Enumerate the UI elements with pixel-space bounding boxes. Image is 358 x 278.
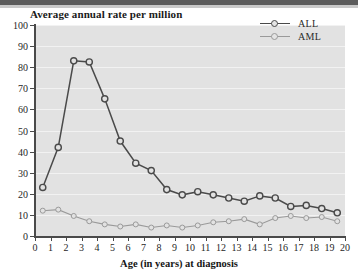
gridline: [35, 173, 345, 174]
legend-item-aml[interactable]: AML: [258, 30, 342, 42]
x-tick-mark: [97, 237, 98, 241]
y-tick-label: 100: [2, 20, 28, 31]
gridline: [35, 46, 345, 47]
x-tick-mark: [66, 237, 67, 241]
x-tick-mark: [144, 237, 145, 241]
y-tick-mark: [30, 109, 35, 110]
gridline: [35, 109, 345, 110]
legend-label: ALL: [292, 18, 318, 29]
x-tick-mark: [128, 237, 129, 241]
y-tick-label: 40: [2, 146, 28, 157]
y-tick-label: 80: [2, 62, 28, 73]
legend-point-icon: [271, 20, 278, 27]
y-tick-mark: [30, 46, 35, 47]
legend-point-icon: [271, 33, 278, 40]
y-tick-label: 10: [2, 209, 28, 220]
y-tick-mark: [30, 173, 35, 174]
y-tick-mark: [30, 88, 35, 89]
x-tick-mark: [314, 237, 315, 241]
legend-label: AML: [292, 31, 321, 42]
x-tick-mark: [299, 237, 300, 241]
y-tick-mark: [30, 215, 35, 216]
x-tick-mark: [345, 237, 346, 241]
x-tick-label: 20: [336, 242, 354, 253]
y-tick-mark: [30, 194, 35, 195]
gridline: [35, 131, 345, 132]
gridline: [35, 152, 345, 153]
y-tick-label: 90: [2, 41, 28, 52]
y-tick-label: 30: [2, 167, 28, 178]
x-tick-mark: [190, 237, 191, 241]
x-tick-mark: [113, 237, 114, 241]
y-tick-label: 20: [2, 188, 28, 199]
x-tick-mark: [330, 237, 331, 241]
gridline: [35, 67, 345, 68]
x-tick-mark: [82, 237, 83, 241]
y-tick-label: 0: [2, 231, 28, 242]
legend-marker-icon: [258, 30, 292, 42]
gridline: [35, 88, 345, 89]
y-tick-label: 60: [2, 104, 28, 115]
y-tick-mark: [30, 152, 35, 153]
x-tick-mark: [252, 237, 253, 241]
x-tick-mark: [221, 237, 222, 241]
gridline: [35, 215, 345, 216]
x-axis-title: Age (in years) at diagnosis: [0, 258, 358, 269]
x-tick-mark: [159, 237, 160, 241]
figure-canvas: Average annual rate per million 01020304…: [0, 0, 358, 278]
gridline: [35, 194, 345, 195]
x-tick-mark: [206, 237, 207, 241]
x-tick-mark: [51, 237, 52, 241]
y-tick-mark: [30, 131, 35, 132]
x-tick-mark: [283, 237, 284, 241]
x-tick-mark: [35, 237, 36, 241]
y-tick-label: 70: [2, 83, 28, 94]
plot-area: [35, 25, 345, 236]
chart-legend: ALLAML: [258, 17, 342, 43]
x-tick-mark: [175, 237, 176, 241]
y-tick-label: 50: [2, 125, 28, 136]
x-tick-mark: [237, 237, 238, 241]
x-tick-mark: [268, 237, 269, 241]
y-tick-mark: [30, 25, 35, 26]
chart-title: Average annual rate per million: [30, 8, 182, 20]
legend-item-all[interactable]: ALL: [258, 17, 342, 29]
legend-marker-icon: [258, 17, 292, 29]
y-tick-mark: [30, 67, 35, 68]
